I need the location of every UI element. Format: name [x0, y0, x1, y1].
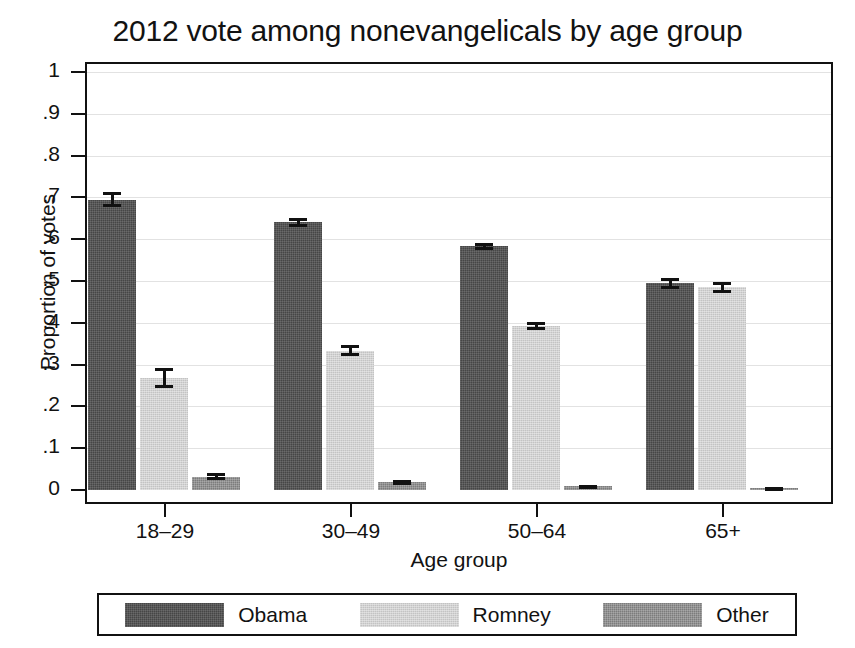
- x-axis-tick-label-2: 50–64: [467, 519, 607, 543]
- y-axis-tick: [71, 155, 85, 157]
- error-bar-cap-top: [661, 278, 679, 281]
- x-axis-tick-label-1: 30–49: [281, 519, 421, 543]
- y-axis-tick-label: .1: [0, 434, 60, 458]
- error-bar-cap-bottom: [289, 224, 307, 227]
- bar-obama-0: [88, 200, 136, 491]
- y-axis-tick: [71, 238, 85, 240]
- error-bar-cap-top: [527, 322, 545, 325]
- y-axis-tick-label: .8: [0, 142, 60, 166]
- legend-label-other: Other: [716, 603, 769, 627]
- error-bar-obama-1: [289, 218, 307, 227]
- y-axis-tick: [71, 280, 85, 282]
- error-bar-cap-top: [289, 218, 307, 221]
- error-bar-other-2: [579, 485, 597, 489]
- error-bar-cap-top: [713, 282, 731, 285]
- y-axis-tick-label: .2: [0, 392, 60, 416]
- legend-label-obama: Obama: [238, 603, 307, 627]
- y-axis-tick-label: .3: [0, 351, 60, 375]
- legend-item-obama[interactable]: Obama: [125, 603, 307, 627]
- y-axis-tick: [71, 489, 85, 491]
- bar-obama-1: [274, 222, 322, 490]
- y-axis-tick-label: .6: [0, 225, 60, 249]
- y-axis-tick: [71, 447, 85, 449]
- error-bar-cap-top: [207, 473, 225, 476]
- plot-area: [87, 64, 831, 502]
- error-bar-romney-2: [527, 322, 545, 330]
- x-axis-title: Age group: [85, 548, 833, 572]
- error-bar-romney-3: [713, 282, 731, 293]
- error-bar-obama-0: [103, 192, 121, 207]
- error-bar-romney-1: [341, 345, 359, 356]
- legend-label-romney: Romney: [473, 603, 551, 627]
- error-bar-obama-3: [661, 278, 679, 289]
- error-bar-other-1: [393, 480, 411, 484]
- y-axis-tick: [71, 322, 85, 324]
- bar-romney-0: [140, 378, 188, 490]
- y-axis-tick: [71, 364, 85, 366]
- x-axis-tick: [722, 504, 724, 517]
- error-bar-cap-bottom: [341, 353, 359, 356]
- obama-swatch: [125, 603, 224, 627]
- error-bar-cap-bottom: [713, 290, 731, 293]
- romney-swatch: [360, 603, 459, 627]
- error-bar-other-3: [765, 487, 783, 491]
- error-bar-cap-bottom: [579, 486, 597, 489]
- y-axis-tick: [71, 405, 85, 407]
- legend-item-romney[interactable]: Romney: [360, 603, 551, 627]
- error-bar-cap-bottom: [475, 247, 493, 250]
- y-axis-tick: [71, 196, 85, 198]
- error-bar-cap-bottom: [527, 327, 545, 330]
- bar-chart-figure: 2012 vote among nonevangelicals by age g…: [0, 0, 855, 648]
- x-axis-tick: [164, 504, 166, 517]
- bar-romney-3: [698, 287, 746, 490]
- y-axis-tick-label: .9: [0, 100, 60, 124]
- error-bar-cap-bottom: [103, 204, 121, 207]
- bar-obama-3: [646, 283, 694, 490]
- legend-item-other[interactable]: Other: [603, 603, 769, 627]
- y-axis-tick-label: .5: [0, 267, 60, 291]
- bar-romney-1: [326, 351, 374, 490]
- y-axis-tick: [71, 113, 85, 115]
- error-bar-other-0: [207, 473, 225, 480]
- x-axis-tick: [536, 504, 538, 517]
- error-bar-cap-bottom: [661, 286, 679, 289]
- y-axis-tick-label: .7: [0, 183, 60, 207]
- x-axis-tick-label-0: 18–29: [95, 519, 235, 543]
- error-bar-cap-bottom: [155, 385, 173, 388]
- error-bar-cap-top: [155, 368, 173, 371]
- y-axis-tick-label: .4: [0, 309, 60, 333]
- y-axis-tick: [71, 71, 85, 73]
- error-bar-cap-top: [475, 243, 493, 246]
- y-axis-tick-label: 1: [0, 58, 60, 82]
- error-bar-cap-bottom: [765, 488, 783, 491]
- error-bar-romney-0: [155, 368, 173, 389]
- bar-romney-2: [512, 326, 560, 490]
- bar-obama-2: [460, 246, 508, 490]
- chart-title: 2012 vote among nonevangelicals by age g…: [0, 14, 855, 48]
- y-axis-tick-label: 0: [0, 476, 60, 500]
- error-bar-cap-top: [341, 345, 359, 348]
- other-swatch: [603, 603, 702, 627]
- x-axis-tick-label-3: 65+: [653, 519, 793, 543]
- error-bar-cap-bottom: [393, 482, 411, 485]
- error-bar-obama-2: [475, 243, 493, 251]
- chart-legend: ObamaRomneyOther: [97, 593, 797, 636]
- x-axis-tick: [350, 504, 352, 517]
- error-bar-cap-top: [103, 192, 121, 195]
- error-bar-cap-bottom: [207, 477, 225, 480]
